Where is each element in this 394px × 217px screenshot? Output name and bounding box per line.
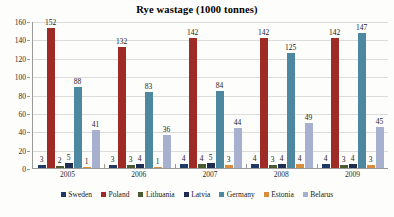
legend-swatch-icon [264, 192, 269, 197]
bar-value-label: 83 [145, 83, 153, 91]
bar-value-label: 3 [40, 156, 44, 164]
y-tick-label: 140 [15, 36, 26, 45]
bar[interactable] [198, 164, 206, 168]
plot-area: 3152258814131323483136414245843444142341… [32, 22, 388, 169]
bar-value-label: 3 [129, 156, 133, 164]
bar-value-label: 36 [163, 126, 171, 134]
bar-slot: 4 [198, 22, 206, 168]
bar[interactable] [322, 164, 330, 168]
y-tick-label: 40 [19, 128, 27, 137]
y-tick-mark [27, 169, 30, 170]
bar-value-label: 152 [45, 19, 56, 27]
bar-groups: 3152258814131323483136414245843444142341… [33, 22, 388, 168]
bar-slot: 3 [340, 22, 348, 168]
legend-label: Belarus [310, 190, 333, 199]
y-tick-mark [27, 59, 30, 60]
legend-label: Latvia [191, 190, 210, 199]
bar[interactable] [340, 165, 348, 168]
legend-item[interactable]: Lithuania [138, 190, 174, 199]
bar[interactable] [234, 128, 242, 168]
bar[interactable] [358, 33, 366, 168]
y-tick-mark [27, 114, 30, 115]
bar[interactable] [127, 165, 135, 168]
bar[interactable] [56, 166, 64, 168]
bar-slot: 3 [38, 22, 46, 168]
bar-value-label: 84 [216, 82, 224, 90]
bar[interactable] [74, 87, 82, 168]
bar[interactable] [118, 47, 126, 168]
legend-item[interactable]: Sweden [61, 190, 92, 199]
bar-value-label: 4 [182, 155, 186, 163]
bar-value-label: 132 [116, 38, 127, 46]
bar-value-label: 3 [227, 156, 231, 164]
bar[interactable] [189, 38, 197, 168]
bar-slot: 44 [234, 22, 242, 168]
y-tick-label: 160 [15, 18, 26, 27]
bar[interactable] [278, 164, 286, 168]
bar[interactable] [180, 164, 188, 168]
legend-label: Estonia [271, 190, 294, 199]
y-tick-mark [27, 77, 30, 78]
bar[interactable] [251, 164, 259, 168]
bar[interactable] [207, 163, 215, 168]
bar-slot: 4 [296, 22, 304, 168]
bar[interactable] [287, 53, 295, 168]
bar-value-label: 142 [187, 29, 198, 37]
bar[interactable] [260, 38, 268, 168]
bar-value-label: 45 [376, 118, 384, 126]
bar-value-label: 88 [74, 78, 82, 86]
chart-title: Rye wastage (1000 tonnes) [0, 4, 394, 15]
y-tick-label: 100 [15, 73, 26, 82]
chart-legend: SwedenPolandLithuaniaLatviaGermanyEstoni… [0, 190, 394, 199]
bar-slot: 3 [225, 22, 233, 168]
bar-value-label: 4 [280, 155, 284, 163]
legend-item[interactable]: Poland [101, 190, 129, 199]
bar-value-label: 125 [285, 44, 296, 52]
legend-item[interactable]: Germany [219, 190, 254, 199]
legend-swatch-icon [101, 192, 106, 197]
bar-slot: 2 [56, 22, 64, 168]
legend-item[interactable]: Latvia [184, 190, 211, 199]
bar[interactable] [349, 164, 357, 168]
legend-label: Sweden [68, 190, 92, 199]
bar-slot: 49 [305, 22, 313, 168]
bar[interactable] [225, 165, 233, 168]
bar[interactable] [47, 28, 55, 168]
bar[interactable] [376, 127, 384, 168]
bar[interactable] [38, 165, 46, 168]
bar-slot: 4 [180, 22, 188, 168]
bar[interactable] [163, 135, 171, 168]
y-axis: 020406080100120140160 [0, 22, 30, 169]
bar[interactable] [216, 91, 224, 168]
bar[interactable] [154, 167, 162, 168]
bar-value-label: 1 [85, 158, 89, 166]
bar-group: 41424584344 [175, 22, 246, 168]
legend-item[interactable]: Estonia [264, 190, 294, 199]
bar-group: 31522588141 [33, 22, 104, 168]
legend-item[interactable]: Belarus [303, 190, 333, 199]
bar-slot: 3 [367, 22, 375, 168]
bar-slot: 3 [127, 22, 135, 168]
bar-value-label: 147 [356, 24, 367, 32]
y-tick-mark [27, 151, 30, 152]
bar[interactable] [296, 164, 304, 168]
y-tick-mark [27, 132, 30, 133]
bar[interactable] [109, 165, 117, 168]
bar[interactable] [92, 130, 100, 168]
legend-label: Lithuania [146, 190, 175, 199]
y-tick-label: 60 [19, 109, 27, 118]
bar[interactable] [331, 38, 339, 168]
bar[interactable] [269, 165, 277, 168]
bar[interactable] [136, 164, 144, 168]
bar[interactable] [305, 123, 313, 168]
bar[interactable] [145, 92, 153, 168]
bar-value-label: 2 [58, 157, 62, 165]
bar[interactable] [367, 165, 375, 168]
bar-value-label: 4 [351, 155, 355, 163]
chart-container: Rye wastage (1000 tonnes) 02040608010012… [0, 0, 394, 217]
bar-group: 31323483136 [104, 22, 175, 168]
bar[interactable] [83, 167, 91, 168]
legend-label: Poland [109, 190, 130, 199]
bar[interactable] [65, 163, 73, 168]
bar-slot: 147 [358, 22, 366, 168]
